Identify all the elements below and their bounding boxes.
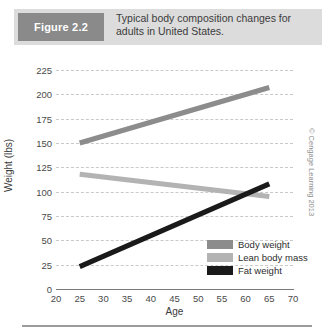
figure-header: Figure 2.2 Typical body composition chan…: [14, 9, 322, 45]
figure-number-tag: Figure 2.2: [18, 13, 104, 41]
chart-legend: Body weightLean body massFat weight: [207, 238, 308, 277]
series-line: [80, 88, 270, 143]
copyright-credit: © Cengage Learning 2013: [307, 128, 316, 216]
chart-container: 0255075100125150175200225 20253035404550…: [0, 48, 335, 316]
legend-swatch: [207, 253, 233, 262]
legend-label: Fat weight: [238, 265, 282, 276]
bottom-divider: [22, 325, 312, 327]
legend-item: Lean body mass: [207, 251, 308, 264]
figure-caption: Typical body composition changes for adu…: [104, 9, 322, 45]
legend-label: Lean body mass: [238, 252, 308, 263]
series-line: [80, 174, 270, 196]
legend-label: Body weight: [238, 239, 290, 250]
legend-item: Fat weight: [207, 264, 308, 277]
plot-area: 0255075100125150175200225 20253035404550…: [0, 48, 335, 316]
legend-swatch: [207, 240, 233, 249]
legend-item: Body weight: [207, 238, 308, 251]
legend-swatch: [207, 266, 233, 275]
